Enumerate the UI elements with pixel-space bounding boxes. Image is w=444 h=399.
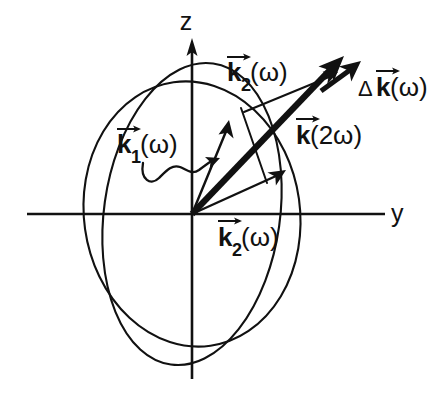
k1-omega-wiggly-pointer bbox=[142, 157, 220, 182]
vector-k2-omega-lower bbox=[192, 170, 286, 214]
label-k-2omega: k (2ω) bbox=[296, 116, 362, 150]
label-k-2omega-symbol: k bbox=[296, 120, 311, 150]
label-k2-omega-top: k 2 (ω) bbox=[227, 54, 288, 95]
wave-vector-diagram: z y k 1 (ω) k 2 (ω) k 2 (ω) bbox=[0, 0, 444, 399]
y-axis-label: y bbox=[391, 199, 404, 227]
label-k2-omega-top-argument: (ω) bbox=[250, 57, 288, 87]
label-k2-omega-bottom: k 2 (ω) bbox=[218, 218, 279, 260]
label-delta-k-omega: Δ k (ω) bbox=[358, 68, 428, 102]
label-k1-omega-argument: (ω) bbox=[140, 129, 178, 159]
label-k2-omega-bottom-argument: (ω) bbox=[241, 222, 279, 252]
figure-root: z y k 1 (ω) k 2 (ω) k 2 (ω) bbox=[0, 0, 444, 399]
label-k2-omega-top-symbol: k bbox=[227, 57, 242, 87]
vector-k2-omega-upper bbox=[192, 120, 234, 214]
label-k2-omega-bottom-symbol: k bbox=[218, 222, 233, 252]
label-k1-omega-symbol: k bbox=[117, 129, 132, 159]
z-axis-label: z bbox=[180, 7, 193, 35]
label-k-2omega-argument: (2ω) bbox=[310, 120, 362, 150]
label-delta-k-omega-symbol: k bbox=[376, 72, 391, 102]
label-k1-omega: k 1 (ω) bbox=[117, 126, 178, 167]
label-delta-k-omega-argument: (ω) bbox=[390, 72, 428, 102]
label-delta-k-omega-delta: Δ bbox=[358, 76, 373, 101]
